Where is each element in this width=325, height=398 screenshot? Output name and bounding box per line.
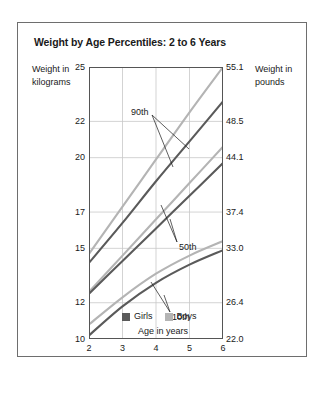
y-tick-label-lb: 26.4 [226, 298, 260, 307]
percentile-label: 50th [179, 243, 197, 252]
plot-area [89, 67, 223, 339]
percentile-label: 90th [131, 108, 149, 117]
y-tick-label-lb: 44.1 [226, 153, 260, 162]
y-tick-label-lb: 33.0 [226, 244, 260, 253]
page-title: Weight by Age Percentiles: 2 to 6 Years [34, 36, 226, 48]
legend-label: Girls [134, 312, 153, 321]
chart-figure: Weight by Age Percentiles: 2 to 6 Years … [17, 22, 307, 357]
y-tick-label-kg: 17 [57, 208, 85, 217]
x-tick-label: 3 [113, 344, 133, 353]
y-tick-label-lb: 37.4 [226, 208, 260, 217]
y-tick-label-kg: 15 [57, 244, 85, 253]
chart-legend: GirlsBoys [122, 312, 197, 321]
y-tick-label-lb: 55.1 [226, 63, 260, 72]
legend-item: Girls [122, 312, 153, 321]
y-tick-label-lb: 22.0 [226, 335, 260, 344]
annotation-leader-line [151, 282, 170, 312]
annotation-leader-line [170, 219, 177, 242]
y-tick-label-kg: 25 [57, 63, 85, 72]
x-tick-label: 5 [180, 344, 200, 353]
right-axis-title: Weight in pounds [255, 63, 315, 88]
y-tick-label-kg: 12 [57, 298, 85, 307]
line-chart-svg [89, 67, 223, 339]
y-tick-label-kg: 20 [57, 153, 85, 162]
legend-item: Boys [165, 312, 197, 321]
x-tick-label: 2 [79, 344, 99, 353]
x-tick-label: 4 [146, 344, 166, 353]
legend-swatch-icon [122, 313, 130, 321]
x-tick-label: 6 [213, 344, 233, 353]
y-tick-label-kg: 10 [57, 335, 85, 344]
legend-swatch-icon [165, 313, 173, 321]
legend-label: Boys [177, 312, 197, 321]
y-tick-label-kg: 22 [57, 117, 85, 126]
y-tick-label-lb: 48.5 [226, 117, 260, 126]
